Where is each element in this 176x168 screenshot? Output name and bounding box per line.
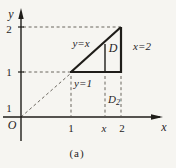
x-tick-label-x: x [102,123,107,134]
origin-label: O [8,119,17,131]
region-label-D: D [109,42,118,54]
x-axis-arrow-icon [151,114,163,119]
strip-label-base: D [108,93,116,105]
strip-label-D2: D2 [108,94,120,107]
figure-caption: (a) [69,148,84,159]
x-axis-label: x [161,121,166,133]
strip-label-subscript: 2 [116,98,120,107]
x-tick-label-1: 1 [68,123,74,134]
y-tick-label-low-1: 1 [6,103,12,114]
y-axis-arrow-icon [18,8,23,19]
y-tick-label-1: 1 [6,67,12,78]
line-label-y-equals-x: y=x [72,38,89,49]
y-axis-label: y [8,8,13,20]
dashed-diagonal-origin [21,74,70,117]
math-diagram-figure: y x O 2 1 1 1 x 2 y=x x=2 y=1 D D2 (a) [0,0,176,168]
line-label-y-equals-1: y=1 [74,78,92,89]
x-tick-label-2: 2 [119,123,125,134]
line-label-x-equals-2: x=2 [133,41,151,52]
y-tick-label-2: 2 [6,24,12,35]
